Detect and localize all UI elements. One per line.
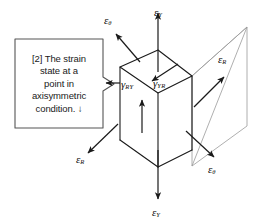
label-gamma-yr: γYR (153, 74, 165, 90)
strain-state-figure: [2] The strain state at a point in axisy… (0, 0, 259, 223)
label-epsilon-theta-top: εθ (104, 11, 112, 27)
arrow-epsilon-theta-right (186, 131, 214, 157)
label-epsilon-theta-right: εθ (208, 160, 216, 176)
callout-line-2: state at a (40, 65, 78, 77)
label-gamma-ry: γRY (121, 75, 133, 91)
arrow-epsilon-r-right (194, 77, 224, 107)
label-epsilon-r-right: εR (218, 50, 227, 66)
label-epsilon-y-top: εY (154, 3, 162, 19)
callout-line-1: [2] The strain (32, 53, 86, 65)
callout-line-3: point in (44, 78, 74, 90)
callout-text: [2] The strain state at a point in axisy… (16, 41, 102, 127)
radial-projection-plane (192, 27, 247, 166)
callout-line-4: axisymmetric (32, 90, 86, 102)
arrow-epsilon-theta-top (116, 34, 140, 62)
label-epsilon-y-bottom: εY (152, 203, 160, 219)
label-epsilon-r-left: εR (76, 150, 85, 166)
strain-element-box (120, 50, 192, 167)
callout-line-5: condition. ↓ (36, 103, 83, 115)
